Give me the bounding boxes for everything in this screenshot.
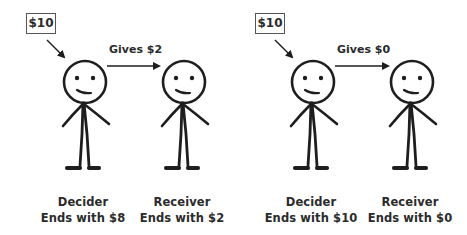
start-amount-box: $10 [26, 13, 56, 34]
decider-label: Decider Ends with $10 [256, 194, 366, 226]
receiver-role: Receiver [355, 194, 465, 210]
receiver-outcome: Ends with $2 [127, 210, 237, 226]
pointer-arrow-icon [275, 40, 292, 57]
receiver-figure-icon [390, 61, 436, 168]
decider-role: Decider [256, 194, 366, 210]
transfer-label: Gives $0 [337, 44, 390, 56]
receiver-figure-icon [162, 61, 208, 168]
panel-2 [275, 40, 436, 168]
receiver-label: Receiver Ends with $2 [127, 194, 237, 226]
pointer-arrow-icon [47, 40, 64, 57]
decider-figure-icon [291, 61, 337, 168]
receiver-role: Receiver [127, 194, 237, 210]
start-amount-box: $10 [255, 13, 285, 34]
receiver-outcome: Ends with $0 [355, 210, 465, 226]
decider-outcome: Ends with $8 [28, 210, 138, 226]
panel-1 [47, 40, 208, 168]
decider-label: Decider Ends with $8 [28, 194, 138, 226]
decider-figure-icon [63, 61, 109, 168]
receiver-label: Receiver Ends with $0 [355, 194, 465, 226]
transfer-label: Gives $2 [109, 44, 162, 56]
decider-outcome: Ends with $10 [256, 210, 366, 226]
decider-role: Decider [28, 194, 138, 210]
